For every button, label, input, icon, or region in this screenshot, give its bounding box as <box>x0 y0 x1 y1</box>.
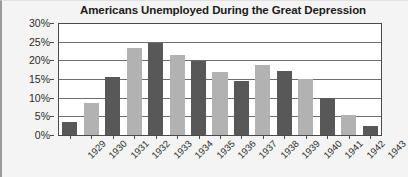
bar <box>341 115 356 135</box>
bar <box>62 122 77 135</box>
x-axis-tick-label: 1930 <box>106 138 129 161</box>
x-axis-tick-label: 1940 <box>321 138 344 161</box>
bar <box>255 65 270 135</box>
x-axis-tick-mark <box>349 136 350 139</box>
chart-figure: Americans Unemployed During the Great De… <box>0 0 408 177</box>
x-axis-tick-label: 1933 <box>171 138 194 161</box>
bar <box>191 61 206 135</box>
x-axis-tick-mark <box>199 136 200 139</box>
bar-series <box>59 24 381 135</box>
y-axis-tick-mark <box>50 23 54 24</box>
x-axis-tick-label: 1937 <box>257 138 280 161</box>
bar <box>84 103 99 135</box>
y-axis-tick-label: 0% <box>35 130 50 141</box>
y-axis: 30%25%20%15%10%5%0% <box>16 23 54 136</box>
x-axis-tick-mark <box>156 136 157 139</box>
x-axis-tick-label: 1941 <box>343 138 366 161</box>
x-axis: 1929193019311932193319341935193619371938… <box>59 138 381 177</box>
x-axis-tick-label: 1943 <box>385 138 408 161</box>
x-axis-tick-mark <box>263 136 264 139</box>
x-axis-tick-mark <box>177 136 178 139</box>
y-axis-tick-label: 30% <box>29 18 50 29</box>
y-axis-tick-mark <box>50 116 54 117</box>
x-axis-tick-mark <box>284 136 285 139</box>
bar <box>212 72 227 135</box>
bar <box>105 77 120 135</box>
x-axis-tick-mark <box>327 136 328 139</box>
x-axis-tick-label: 1932 <box>149 138 172 161</box>
x-axis-tick-label: 1931 <box>128 138 151 161</box>
x-axis-tick-mark <box>113 136 114 139</box>
bar <box>320 98 335 135</box>
y-axis-tick-label: 25% <box>29 36 50 47</box>
y-axis-tick-mark <box>50 98 54 99</box>
bar <box>277 71 292 135</box>
x-axis-tick-label: 1938 <box>278 138 301 161</box>
x-axis-tick-label: 1939 <box>300 138 323 161</box>
bar <box>298 79 313 135</box>
x-axis-tick-label: 1935 <box>214 138 237 161</box>
y-axis-tick-label: 20% <box>29 55 50 66</box>
y-axis-tick-label: 5% <box>35 111 50 122</box>
y-axis-tick-mark <box>50 42 54 43</box>
y-axis-tick-label: 10% <box>29 92 50 103</box>
y-axis-tick-mark <box>50 60 54 61</box>
chart-title: Americans Unemployed During the Great De… <box>42 4 404 16</box>
x-axis-tick-mark <box>70 136 71 139</box>
x-axis-tick-mark <box>306 136 307 139</box>
bar <box>363 126 378 135</box>
bar <box>127 48 142 135</box>
x-axis-tick-mark <box>91 136 92 139</box>
x-axis-tick-label: 1929 <box>85 138 108 161</box>
x-axis-tick-mark <box>134 136 135 139</box>
y-axis-tick-mark <box>50 135 54 136</box>
bar <box>234 81 249 135</box>
x-axis-tick-mark <box>241 136 242 139</box>
x-axis-tick-mark <box>370 136 371 139</box>
x-axis-tick-mark <box>220 136 221 139</box>
y-axis-tick-label: 15% <box>29 74 50 85</box>
bar <box>170 55 185 135</box>
x-axis-tick-label: 1942 <box>364 138 387 161</box>
x-axis-tick-label: 1934 <box>192 138 215 161</box>
y-axis-tick-mark <box>50 79 54 80</box>
x-axis-tick-label: 1936 <box>235 138 258 161</box>
bar <box>148 43 163 136</box>
